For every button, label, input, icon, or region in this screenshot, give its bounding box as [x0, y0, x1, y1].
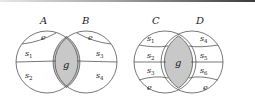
region-label: s2 [147, 51, 155, 61]
set-label-b: B [81, 15, 89, 26]
region-label: s1 [25, 49, 33, 59]
set-label-a: A [39, 15, 47, 26]
region-label: s3 [96, 49, 104, 59]
intersection-label: g [63, 59, 69, 70]
divider [139, 77, 168, 80]
region-label: s6 [200, 66, 208, 76]
region-label: e [203, 83, 208, 92]
set-label-d: D [195, 15, 204, 26]
region-label: s2 [25, 71, 33, 81]
region-label: s5 [200, 51, 208, 61]
region-label: s4 [96, 71, 104, 81]
region-label: s3 [147, 66, 155, 76]
venn-diagrams: A B g e s1 s2 e s3 s4 C D g s1 s2 s3 e s… [0, 0, 255, 106]
divider [139, 45, 168, 47]
venn-diagram-right: C D g s1 s2 s3 e s4 s5 s6 e [134, 15, 223, 93]
divider [189, 45, 218, 47]
divider [189, 77, 218, 80]
divider [77, 61, 117, 62]
region-label: s1 [147, 34, 155, 44]
intersection-label: g [175, 57, 181, 68]
region-label: e [41, 33, 46, 42]
region-label: e [88, 33, 93, 42]
divider [16, 61, 56, 62]
region-label: e [147, 83, 152, 92]
set-label-c: C [152, 15, 160, 26]
region-label: s4 [200, 34, 208, 44]
venn-diagram-left: A B g e s1 s2 e s3 s4 [16, 15, 117, 93]
